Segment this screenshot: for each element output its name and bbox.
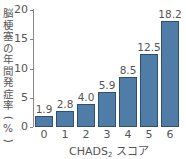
- bar-value-label: 18.2: [156, 9, 184, 20]
- y-tick-label: 20: [2, 4, 28, 15]
- y-tick-label: 10: [2, 63, 28, 74]
- x-tick-label: 5: [139, 129, 159, 140]
- bar-value-label: 4.0: [72, 92, 100, 103]
- y-tick-label: 0: [2, 121, 28, 132]
- bar-6: [161, 21, 179, 127]
- x-tick-label: 2: [76, 129, 96, 140]
- bar-value-label: 5.9: [93, 80, 121, 91]
- x-tick-label: 6: [160, 129, 180, 140]
- bar-5: [140, 54, 158, 127]
- y-tick-mark: [30, 127, 33, 128]
- y-tick-mark: [30, 69, 33, 70]
- y-tick-label: 15: [2, 33, 28, 44]
- y-tick-mark: [30, 10, 33, 11]
- y-axis-label-char: 発: [1, 77, 15, 89]
- bar-value-label: 12.5: [135, 42, 163, 53]
- x-axis-label: CHADS2 スコア: [34, 142, 184, 159]
- x-tick-label: 0: [34, 129, 54, 140]
- bar-1: [56, 111, 74, 127]
- y-axis-label-char: ): [2, 133, 14, 147]
- bar-4: [119, 77, 137, 127]
- bar-0: [35, 116, 53, 127]
- x-tick-label: 4: [118, 129, 138, 140]
- bar-3: [98, 92, 116, 127]
- bar-value-label: 8.5: [114, 65, 142, 76]
- y-tick-mark: [30, 39, 33, 40]
- bar-2: [77, 104, 95, 127]
- x-tick-label: 1: [55, 129, 75, 140]
- chart: 脳梗塞の年間発症率(%) 05101520 1.92.84.05.98.512.…: [0, 0, 186, 159]
- y-tick-mark: [30, 98, 33, 99]
- y-tick-label: 5: [2, 92, 28, 103]
- x-tick-label: 3: [97, 129, 117, 140]
